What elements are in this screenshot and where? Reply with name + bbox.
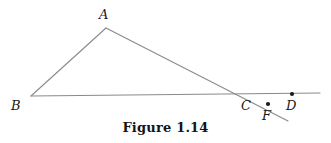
point-label-D: D	[286, 99, 296, 112]
segment-BA-line	[31, 28, 106, 96]
point-label-C: C	[241, 99, 251, 112]
point-label-A: A	[99, 8, 108, 21]
figure-container: A B C D F Figure 1.14	[0, 0, 331, 143]
point-dot-D	[290, 92, 294, 96]
point-label-B: B	[11, 99, 21, 112]
figure-caption: Figure 1.14	[0, 120, 331, 135]
point-dot-F	[266, 102, 270, 106]
baseline-BD-line	[31, 93, 320, 96]
transversal-ACF-line	[106, 28, 288, 121]
